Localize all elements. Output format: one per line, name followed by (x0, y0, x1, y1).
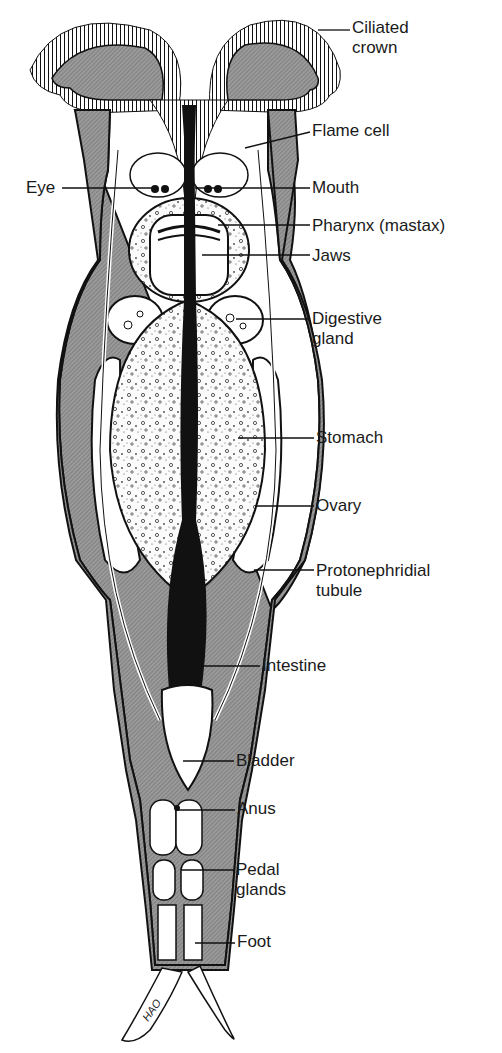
label-foot: Foot (237, 932, 271, 952)
label-text: Pedal (236, 860, 286, 880)
label-pedal-glands: Pedal glands (236, 860, 286, 900)
label-text-line2: crown (352, 38, 409, 58)
label-pharynx: Pharynx (mastax) (312, 216, 445, 236)
label-flame-cell: Flame cell (312, 121, 389, 141)
eye-spot-icon (151, 185, 159, 193)
label-bladder: Bladder (236, 751, 295, 771)
label-mouth: Mouth (312, 178, 359, 198)
label-text: Ciliated (352, 18, 409, 38)
label-stomach: Stomach (316, 428, 383, 448)
label-text: Digestive (312, 309, 382, 329)
label-anus: Anus (237, 799, 276, 819)
toe-right (188, 966, 234, 1039)
label-ciliated-crown: Ciliated crown (352, 18, 409, 58)
label-text-line2: tubule (316, 581, 430, 601)
label-digestive-gland: Digestive gland (312, 309, 382, 349)
label-ovary: Ovary (316, 496, 361, 516)
label-protonephridial-tubule: Protonephridial tubule (316, 561, 430, 601)
label-eye: Eye (26, 178, 55, 198)
label-text-line2: gland (312, 329, 382, 349)
label-text: Protonephridial (316, 561, 430, 581)
label-jaws: Jaws (312, 246, 351, 266)
label-intestine: Intestine (262, 656, 326, 676)
label-text-line2: glands (236, 880, 286, 900)
